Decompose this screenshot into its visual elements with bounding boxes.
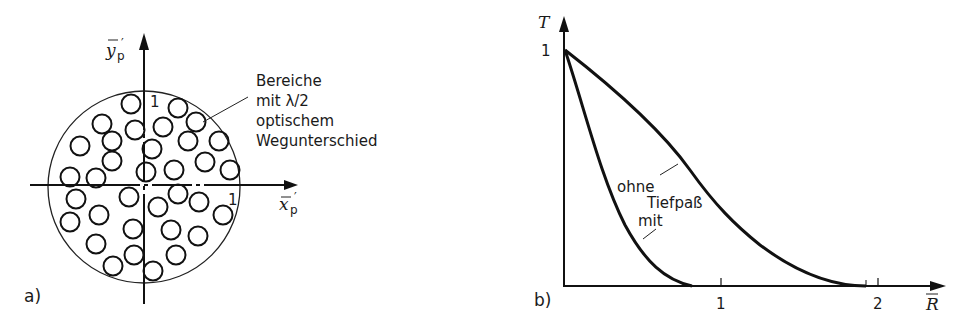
phase-region-circle <box>149 198 168 217</box>
phase-region-circle <box>93 115 112 134</box>
r-tick-label-2: 2 <box>873 295 883 313</box>
annotation-line-3: optischem <box>256 112 334 130</box>
phase-region-circle <box>144 262 163 281</box>
phase-region-circle <box>124 220 143 239</box>
label-tiefpass: Tiefpaß <box>646 194 703 212</box>
y-axis-arrow-icon <box>139 33 149 50</box>
ohne-leader <box>660 164 678 175</box>
phase-region-circle <box>104 257 123 276</box>
phase-region-circle <box>103 152 122 171</box>
phase-region-circle <box>189 227 208 246</box>
y-tick-1: 1 <box>150 93 160 111</box>
phase-region-circle <box>143 140 162 159</box>
phase-region-circle <box>126 121 145 140</box>
y-axis-sub: p <box>117 49 125 63</box>
y-axis-prime: ′ <box>121 36 124 50</box>
annotation-line-4: Wegunterschied <box>256 132 377 150</box>
phase-region-circle <box>103 132 122 151</box>
phase-region-circle <box>61 213 80 232</box>
phase-region-circle <box>179 132 198 151</box>
figure: 1 1 y p ′ x p ′ Bereiche mit λ/2 optisch… <box>0 0 974 334</box>
x-axis-arrow-icon <box>284 180 298 190</box>
phase-region-circle <box>87 235 106 254</box>
r-tick-label-1: 1 <box>716 295 726 313</box>
phase-region-circle <box>187 113 206 132</box>
curve-ohne-tiefpass <box>565 50 866 286</box>
phase-region-circle <box>190 193 209 212</box>
x-axis-prime: ′ <box>294 190 297 204</box>
phase-region-circle <box>210 132 229 151</box>
phase-region-circle <box>120 188 139 207</box>
panel-b: 1 1 2 T R ohne Tiefpaß mit b) <box>534 12 946 314</box>
t-axis-label: T <box>538 12 551 32</box>
phase-region-circle <box>71 137 90 156</box>
x-axis-sub: p <box>290 203 298 217</box>
phase-region-circle <box>169 185 188 204</box>
panel-a: 1 1 y p ′ x p ′ Bereiche mit λ/2 optisch… <box>24 33 377 306</box>
phase-region-circle <box>61 168 80 187</box>
phase-region-circle <box>196 153 215 172</box>
annotation-leader <box>203 97 248 122</box>
t-tick-1: 1 <box>541 42 551 60</box>
phase-region-circle <box>167 246 186 265</box>
phase-region-circle <box>90 206 109 225</box>
phase-regions <box>61 95 240 281</box>
phase-region-circle <box>221 161 240 180</box>
phase-region-circle <box>122 95 141 114</box>
phase-region-circle <box>169 99 188 118</box>
annotation-line-1: Bereiche <box>256 72 322 90</box>
annotation-line-2: mit λ/2 <box>256 92 309 110</box>
label-mit: mit <box>638 212 663 230</box>
phase-region-circle <box>125 246 144 265</box>
r-axis-arrow-icon <box>930 281 946 291</box>
curve-mit-tiefpass <box>565 50 692 286</box>
panel-b-label: b) <box>534 290 551 310</box>
x-tick-1: 1 <box>228 191 238 209</box>
mit-leader <box>643 229 656 239</box>
phase-region-circle <box>137 163 156 182</box>
t-axis-arrow-icon <box>559 16 569 32</box>
y-axis-label: y <box>105 40 116 60</box>
phase-region-circle <box>154 118 173 137</box>
phase-region-circle <box>165 161 184 180</box>
panel-a-label: a) <box>24 286 41 306</box>
r-axis-label: R <box>925 294 939 314</box>
phase-region-circle <box>162 221 181 240</box>
phase-region-circle <box>67 190 86 209</box>
